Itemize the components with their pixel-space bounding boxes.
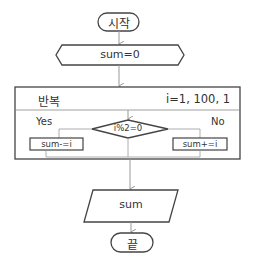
decision-label: i%2=0: [108, 123, 148, 133]
loop-range: i=1, 100, 1: [166, 92, 230, 106]
no-label: No: [211, 116, 225, 127]
flowchart-canvas: [0, 0, 253, 273]
init-label: sum=0: [56, 48, 184, 61]
yes-action-label: sum-=i: [30, 139, 83, 149]
no-action-label: sum+=i: [173, 139, 227, 149]
loop-label: 반복: [38, 92, 60, 109]
yes-label: Yes: [36, 116, 52, 127]
end-label: 끝: [111, 235, 153, 252]
output-label: sum: [84, 198, 178, 211]
start-label: 시작: [98, 14, 139, 31]
